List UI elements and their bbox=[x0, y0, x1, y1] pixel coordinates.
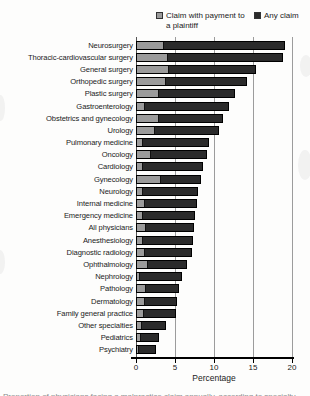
bar-track bbox=[136, 211, 310, 220]
any-claim-bar bbox=[136, 321, 166, 330]
payment-claim-bar bbox=[137, 200, 145, 207]
bar-track bbox=[136, 53, 310, 62]
any-claim-bar bbox=[136, 126, 219, 135]
category-label: Cardiology bbox=[0, 162, 136, 171]
payment-claim-bar bbox=[137, 42, 164, 49]
x-axis-title: Percentage bbox=[136, 373, 292, 383]
chart-row: Neurosurgery bbox=[0, 39, 310, 51]
chart-row: Ophthalmology bbox=[0, 258, 310, 270]
category-label: Neurosurgery bbox=[0, 41, 136, 50]
chart-row: Anesthesiology bbox=[0, 234, 310, 246]
chart-row: Family general practice bbox=[0, 307, 310, 319]
chart-row: Emergency medicine bbox=[0, 210, 310, 222]
category-label: Emergency medicine bbox=[0, 211, 136, 220]
payment-claim-bar bbox=[137, 334, 141, 341]
any-claim-bar bbox=[136, 65, 256, 74]
any-claim-bar bbox=[136, 77, 247, 86]
payment-claim-bar bbox=[137, 237, 143, 244]
legend-label: Any claim bbox=[264, 11, 299, 30]
any-claim-bar bbox=[136, 248, 192, 257]
legend-item-claim-with-payment: Claim with payment to a plaintiff bbox=[156, 11, 245, 30]
chart-row: Psychiatry bbox=[0, 344, 310, 356]
payment-claim-bar bbox=[137, 249, 145, 256]
category-label: Pathology bbox=[0, 284, 136, 293]
payment-claim-bar bbox=[137, 298, 145, 305]
payment-claim-bar bbox=[137, 90, 159, 97]
figure-caption-fragment: Proportion of physicians facing a malpra… bbox=[3, 392, 307, 396]
any-claim-bar bbox=[136, 284, 179, 293]
category-label: All physicians bbox=[0, 223, 136, 232]
chart-rows: NeurosurgeryThoracic-cardiovascular surg… bbox=[0, 39, 310, 356]
payment-claim-bar bbox=[137, 139, 143, 146]
payment-claim-bar bbox=[137, 151, 151, 158]
chart-row: Nephrology bbox=[0, 271, 310, 283]
payment-claim-bar bbox=[137, 310, 144, 317]
bar-track bbox=[136, 199, 310, 208]
category-label: Obstetrics and gynecology bbox=[0, 114, 136, 123]
any-claim-bar bbox=[136, 211, 195, 220]
bar-track bbox=[136, 272, 310, 281]
legend-label: Claim with payment to a plaintiff bbox=[166, 11, 245, 30]
payment-claim-bar bbox=[137, 261, 148, 268]
any-claim-bar bbox=[136, 272, 182, 281]
category-label: Plastic surgery bbox=[0, 89, 136, 98]
chart-row: Obstetrics and gynecology bbox=[0, 112, 310, 124]
bar-track bbox=[136, 138, 310, 147]
bar-track bbox=[136, 150, 310, 159]
any-claim-bar bbox=[136, 236, 193, 245]
bar-track bbox=[136, 126, 310, 135]
any-claim-bar bbox=[136, 162, 203, 171]
payment-claim-bar bbox=[137, 188, 143, 195]
payment-claim-bar bbox=[137, 322, 142, 329]
bar-chart: NeurosurgeryThoracic-cardiovascular surg… bbox=[0, 37, 310, 357]
bar-track bbox=[136, 345, 310, 354]
category-label: Diagnostic radiology bbox=[0, 248, 136, 257]
chart-row: Neurology bbox=[0, 185, 310, 197]
chart-row: Gastroenterology bbox=[0, 100, 310, 112]
category-label: Internal medicine bbox=[0, 199, 136, 208]
x-tick-label: 15 bbox=[249, 363, 258, 372]
payment-claim-bar bbox=[137, 78, 166, 85]
bar-track bbox=[136, 114, 310, 123]
chart-row: All physicians bbox=[0, 222, 310, 234]
any-claim-bar bbox=[136, 53, 283, 62]
category-label: Gynecology bbox=[0, 175, 136, 184]
payment-claim-bar bbox=[137, 273, 140, 280]
bar-track bbox=[136, 223, 310, 232]
any-claim-bar bbox=[136, 345, 156, 354]
bar-track bbox=[136, 41, 310, 50]
payment-claim-bar bbox=[137, 176, 161, 183]
x-tick-label: 0 bbox=[134, 363, 138, 372]
payment-claim-bar bbox=[137, 115, 159, 122]
x-tick-label: 10 bbox=[210, 363, 219, 372]
bar-track bbox=[136, 309, 310, 318]
legend: Claim with payment to a plaintiff Any cl… bbox=[156, 11, 299, 30]
category-label: Family general practice bbox=[0, 309, 136, 318]
chart-row: Internal medicine bbox=[0, 197, 310, 209]
bar-track bbox=[136, 65, 310, 74]
any-claim-bar bbox=[136, 41, 285, 50]
chart-row: Thoracic-cardiovascular surgery bbox=[0, 51, 310, 63]
category-label: Urology bbox=[0, 126, 136, 135]
category-label: Other specialties bbox=[0, 321, 136, 330]
payment-claim-bar bbox=[137, 346, 139, 353]
bar-track bbox=[136, 175, 310, 184]
category-label: Thoracic-cardiovascular surgery bbox=[0, 53, 136, 62]
any-claim-bar bbox=[136, 102, 229, 111]
any-claim-bar bbox=[136, 138, 209, 147]
chart-row: Cardiology bbox=[0, 161, 310, 173]
chart-row: Plastic surgery bbox=[0, 88, 310, 100]
bar-track bbox=[136, 89, 310, 98]
any-claim-bar bbox=[136, 333, 159, 342]
category-label: Nephrology bbox=[0, 272, 136, 281]
category-label: Psychiatry bbox=[0, 345, 136, 354]
bar-track bbox=[136, 248, 310, 257]
category-label: Orthopedic surgery bbox=[0, 77, 136, 86]
chart-row: Diagnostic radiology bbox=[0, 246, 310, 258]
payment-claim-bar bbox=[137, 285, 146, 292]
any-claim-bar bbox=[136, 187, 198, 196]
any-claim-swatch-icon bbox=[254, 12, 261, 19]
chart-row: Oncology bbox=[0, 149, 310, 161]
any-claim-bar bbox=[136, 89, 235, 98]
bar-track bbox=[136, 333, 310, 342]
